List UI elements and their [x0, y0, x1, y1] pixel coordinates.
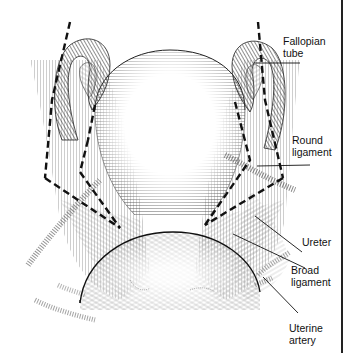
label-broad-ligament-line2: ligament: [291, 276, 331, 288]
label-fallopian-tube-line1: Fallopian: [283, 35, 326, 47]
frame-border-right: [341, 0, 343, 353]
label-uterine-artery-line1: Uterine: [289, 322, 323, 334]
label-uterine-artery: Uterine artery: [289, 322, 323, 346]
label-fallopian-tube: Fallopian tube: [283, 35, 326, 59]
uterus-fundus: [95, 50, 245, 215]
label-ureter-line1: Ureter: [302, 236, 331, 248]
label-uterine-artery-line2: artery: [289, 334, 323, 346]
label-broad-ligament: Broad ligament: [291, 264, 331, 288]
label-round-ligament: Round ligament: [292, 134, 332, 158]
label-ureter: Ureter: [302, 236, 331, 248]
label-round-ligament-line1: Round: [292, 134, 332, 146]
label-broad-ligament-line1: Broad: [291, 264, 331, 276]
label-fallopian-tube-line2: tube: [283, 47, 326, 59]
label-round-ligament-line2: ligament: [292, 146, 332, 158]
